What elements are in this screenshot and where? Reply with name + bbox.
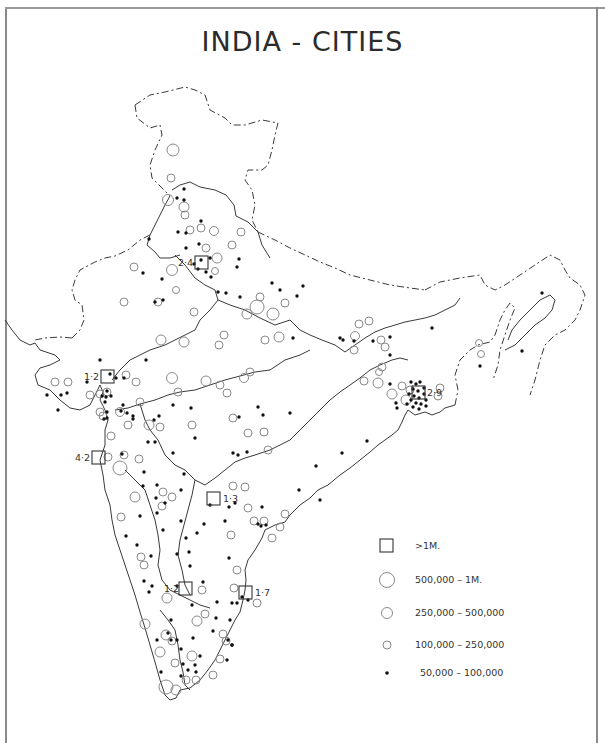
legend-label: 500,000 – 1M.	[415, 574, 482, 585]
state-boundary-up-mp	[218, 300, 345, 352]
value-label-ahmedabad: 1·2	[84, 371, 99, 382]
square-bangalore	[179, 582, 192, 595]
square-bombay	[92, 451, 105, 464]
state-boundary-bihar	[345, 298, 460, 352]
legend-row-50k-100k: 50,000 – 100,000	[378, 664, 538, 684]
international-border-nepal	[258, 232, 425, 290]
value-label-madras: 1·7	[255, 587, 270, 598]
international-border-northeast	[425, 255, 585, 395]
value-label-calcutta: 2·9	[427, 387, 442, 398]
legend-row-250k-500k: 250,000 – 500,000	[378, 604, 538, 624]
legend-label: 100,000 – 250,000	[415, 639, 504, 650]
square-ahmedabad	[101, 370, 114, 383]
state-boundary-punjab-west	[147, 196, 180, 258]
legend-row-100k-250k: 100,000 – 250,000	[378, 636, 538, 656]
value-label-hyderabad: 1·3	[223, 493, 238, 504]
state-boundary-assam	[505, 295, 555, 350]
value-label-bangalore: 1·2	[164, 583, 179, 594]
legend-row-500k-1m: 500,000 – 1M.	[378, 571, 538, 591]
legend-label: 50,000 – 100,000	[420, 667, 503, 678]
value-label-bombay: 4·2	[75, 452, 90, 463]
value-label-delhi: 2·4	[178, 257, 193, 268]
state-boundary-maharashtra-andhra	[140, 404, 290, 485]
small-circle-symbol-icon	[378, 636, 404, 656]
legend-label: 250,000 – 500,000	[415, 607, 504, 618]
million-city-squares	[92, 256, 425, 599]
square-delhi	[195, 256, 208, 269]
dot-symbol-icon	[378, 664, 404, 684]
international-border-west	[72, 235, 150, 338]
medium-circle-symbol-icon	[378, 604, 404, 624]
international-border-kutch	[35, 337, 72, 340]
international-border-north	[135, 87, 278, 232]
legend-row-over-1m: >1M.	[378, 537, 538, 557]
large-circle-symbol-icon	[378, 571, 404, 591]
legend-label: >1M.	[415, 540, 440, 551]
state-boundary-rajasthan-mp	[112, 255, 218, 380]
square-symbol-icon	[378, 537, 404, 557]
international-border-west-north	[135, 105, 170, 196]
square-hyderabad	[207, 492, 220, 505]
